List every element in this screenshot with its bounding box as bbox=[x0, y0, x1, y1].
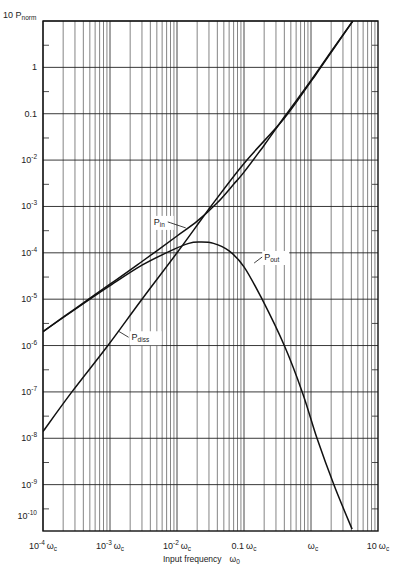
x-tick-base: 0.1 bbox=[232, 541, 245, 551]
y-tick-label: 10-7 bbox=[21, 385, 37, 397]
x-tick-label: 10-2ωc bbox=[163, 539, 192, 552]
series-line-p-diss bbox=[43, 21, 353, 432]
y-tick-base: 10 bbox=[21, 155, 31, 165]
curve-label-p-diss: Pdiss bbox=[119, 331, 162, 345]
y-tick-base: 10 bbox=[21, 248, 31, 258]
x-tick-unit: ω bbox=[308, 541, 315, 551]
y-axis-title-subscript: norm bbox=[22, 14, 37, 21]
curve-label-subscript: out bbox=[270, 256, 279, 263]
y-tick-label: 10-4 bbox=[21, 246, 37, 258]
y-tick-base: 1 bbox=[32, 62, 37, 72]
y-tick-label: 0.1 bbox=[24, 109, 37, 119]
leader-arrow bbox=[254, 257, 262, 263]
x-tick-unit-subscript: c bbox=[121, 545, 125, 552]
y-tick-base: 0.1 bbox=[24, 109, 37, 119]
leader-arrow bbox=[119, 331, 129, 337]
x-tick-unit: ω bbox=[379, 541, 386, 551]
x-tick-label: 10-3ωc bbox=[96, 539, 125, 552]
y-tick-label: 1 bbox=[32, 62, 37, 72]
x-axis: 10-4ωc10-3ωc10-2ωc0.1ωcωc10ωc bbox=[29, 539, 390, 552]
series bbox=[43, 21, 353, 529]
y-tick-exponent: -3 bbox=[31, 199, 37, 206]
curve-labels: PinPoutPdiss bbox=[119, 216, 290, 345]
y-tick-exponent: -10 bbox=[28, 509, 38, 516]
y-tick-base: 10 bbox=[21, 341, 31, 351]
x-tick-base: 10 bbox=[29, 541, 39, 551]
x-tick-label: 10-4ωc bbox=[29, 539, 58, 552]
x-axis-title: Input frequencyω0 bbox=[163, 554, 240, 565]
y-tick-label: 10-2 bbox=[21, 153, 37, 165]
y-tick-label: 10-9 bbox=[21, 478, 37, 490]
x-tick-unit: ω bbox=[114, 541, 121, 551]
x-tick-exponent: -2 bbox=[173, 539, 179, 546]
y-tick-exponent: -2 bbox=[31, 153, 37, 160]
x-tick-unit-subscript: c bbox=[54, 545, 58, 552]
x-tick-unit: ω bbox=[47, 541, 54, 551]
y-axis: 10.110-210-310-410-510-610-710-810-910-1… bbox=[18, 62, 38, 521]
x-tick-label: ωc bbox=[308, 541, 319, 552]
y-tick-base: 10 bbox=[18, 511, 28, 521]
y-tick-exponent: -9 bbox=[31, 478, 37, 485]
y-tick-label: 10-5 bbox=[21, 292, 37, 304]
x-tick-base: 10 bbox=[367, 541, 377, 551]
y-tick-base: 10 bbox=[21, 433, 31, 443]
x-tick-unit: ω bbox=[246, 541, 253, 551]
y-tick-label: 10-3 bbox=[21, 199, 37, 211]
x-tick-unit-subscript: c bbox=[188, 545, 192, 552]
x-axis-title-text: Input frequency bbox=[163, 554, 222, 564]
x-tick-unit-subscript: c bbox=[253, 545, 257, 552]
plot-frame bbox=[43, 21, 378, 531]
y-tick-label: 10-6 bbox=[21, 339, 37, 351]
x-tick-unit-subscript: c bbox=[386, 545, 390, 552]
y-tick-exponent: -7 bbox=[31, 385, 37, 392]
y-tick-exponent: -5 bbox=[31, 292, 37, 299]
curve-label-subscript: diss bbox=[138, 336, 150, 343]
y-axis-title: 10 Pnorm bbox=[3, 10, 36, 21]
y-tick-base: 10 bbox=[21, 480, 31, 490]
series-line-p-out bbox=[43, 242, 352, 529]
x-tick-exponent: -3 bbox=[106, 539, 112, 546]
y-tick-base: 10 bbox=[21, 201, 31, 211]
x-tick-base: 10 bbox=[163, 541, 173, 551]
x-tick-unit: ω bbox=[181, 541, 188, 551]
curve-label-p-in: Pin bbox=[152, 216, 186, 230]
chart: 10.110-210-310-410-510-610-710-810-910-1… bbox=[0, 0, 402, 573]
y-tick-base: 10 bbox=[21, 387, 31, 397]
y-tick-label: 10-10 bbox=[18, 509, 38, 521]
grid bbox=[43, 21, 378, 531]
y-tick-label: 10-8 bbox=[21, 431, 37, 443]
y-tick-exponent: -4 bbox=[31, 246, 37, 253]
x-axis-title-subscript: 0 bbox=[236, 558, 240, 565]
y-tick-exponent: -8 bbox=[31, 431, 37, 438]
x-tick-base: 10 bbox=[96, 541, 106, 551]
y-tick-exponent: -6 bbox=[31, 339, 37, 346]
curve-label-subscript: in bbox=[160, 221, 165, 228]
y-axis-title-prefix: 10 P bbox=[3, 10, 22, 20]
x-tick-exponent: -4 bbox=[39, 539, 45, 546]
x-tick-label: 0.1ωc bbox=[232, 541, 258, 552]
x-tick-unit-subscript: c bbox=[315, 545, 319, 552]
x-tick-label: 10ωc bbox=[367, 541, 390, 552]
y-tick-base: 10 bbox=[21, 294, 31, 304]
